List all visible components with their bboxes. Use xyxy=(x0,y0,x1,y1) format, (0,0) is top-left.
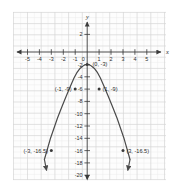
point-left-mid xyxy=(74,88,77,91)
label-vertex: (0, -3) xyxy=(93,61,108,67)
coordinate-plane-svg: -5 -4 -3 -2 -1 1 2 3 4 5 0 2 -2 -4 -6 -8… xyxy=(0,0,177,193)
point-right-outer xyxy=(122,149,125,152)
x-tick-label: 3 xyxy=(122,56,125,62)
x-tick-label: -3 xyxy=(49,56,54,62)
label-right-outer: (3, -16.5) xyxy=(126,148,149,154)
parabola-graph-figure: -5 -4 -3 -2 -1 1 2 3 4 5 0 2 -2 -4 -6 -8… xyxy=(0,0,177,193)
x-tick-label: -2 xyxy=(61,56,66,62)
x-tick-label: 4 xyxy=(133,56,136,62)
x-tick-label: 2 xyxy=(110,56,113,62)
y-tick-label: -2 xyxy=(78,62,83,68)
y-tick-label: -4 xyxy=(78,74,83,80)
y-tick-label: -6 xyxy=(78,86,83,92)
y-tick-label: -10 xyxy=(75,111,83,117)
x-tick-label: 5 xyxy=(145,56,148,62)
y-tick-label: -12 xyxy=(75,123,83,129)
label-left-outer: (-3, -16.5) xyxy=(23,148,48,154)
y-tick-label: -16 xyxy=(75,148,83,154)
y-tick-label: -14 xyxy=(75,135,83,141)
point-right-mid xyxy=(98,88,101,91)
label-left-mid: (-1, -9) xyxy=(55,86,72,92)
y-axis-label: y xyxy=(85,13,89,20)
y-tick-label: -8 xyxy=(78,98,83,104)
point-vertex xyxy=(86,63,89,66)
y-tick-label: -18 xyxy=(75,160,83,166)
x-tick-label: -5 xyxy=(25,56,30,62)
x-axis-label: x xyxy=(165,48,169,55)
y-tick-label: 2 xyxy=(80,31,83,37)
y-tick-label: -20 xyxy=(75,172,83,178)
point-left-outer xyxy=(50,149,53,152)
label-right-mid: (1, -9) xyxy=(103,86,118,92)
x-tick-label: -4 xyxy=(37,56,42,62)
